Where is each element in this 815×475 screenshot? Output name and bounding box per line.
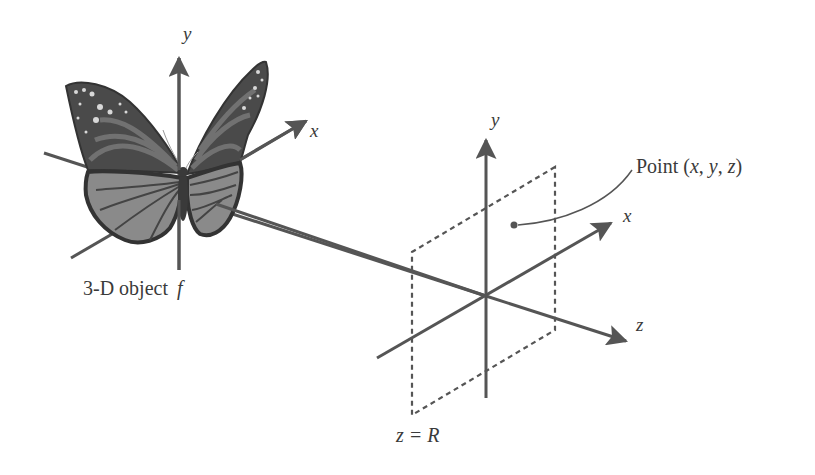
- optical-axis-front: [216, 204, 486, 296]
- point-label: Point (x, y, z): [636, 155, 742, 178]
- plane-label: z = R: [395, 424, 440, 446]
- projection-diagram: y x 3-D object f y x z Point (x, y, z) z…: [0, 0, 815, 475]
- object-x-label: x: [309, 120, 319, 141]
- viewer-y-label: y: [489, 109, 500, 130]
- viewer-x-label: x: [622, 205, 632, 226]
- viewer-x-axis: [377, 223, 611, 358]
- projected-point: [511, 222, 518, 229]
- viewer-axes: [377, 140, 632, 415]
- image-plane: [412, 167, 555, 415]
- object-caption: 3-D object f: [83, 277, 185, 300]
- object-y-label: y: [181, 23, 192, 44]
- viewer-z-label: z: [635, 314, 644, 335]
